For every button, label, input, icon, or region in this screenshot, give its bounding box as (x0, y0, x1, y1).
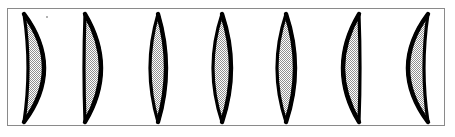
speck-artifact (46, 16, 48, 18)
figure-container (0, 0, 455, 137)
lune-shape-group (24, 14, 428, 122)
lune-shapes-canvas (0, 0, 455, 137)
